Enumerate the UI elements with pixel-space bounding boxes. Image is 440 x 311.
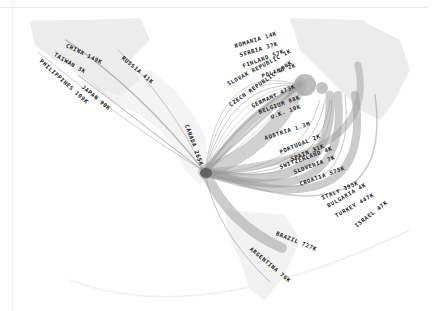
europe-hub [294, 74, 316, 96]
canada-hub [200, 168, 212, 178]
europe-landmass [290, 18, 410, 120]
